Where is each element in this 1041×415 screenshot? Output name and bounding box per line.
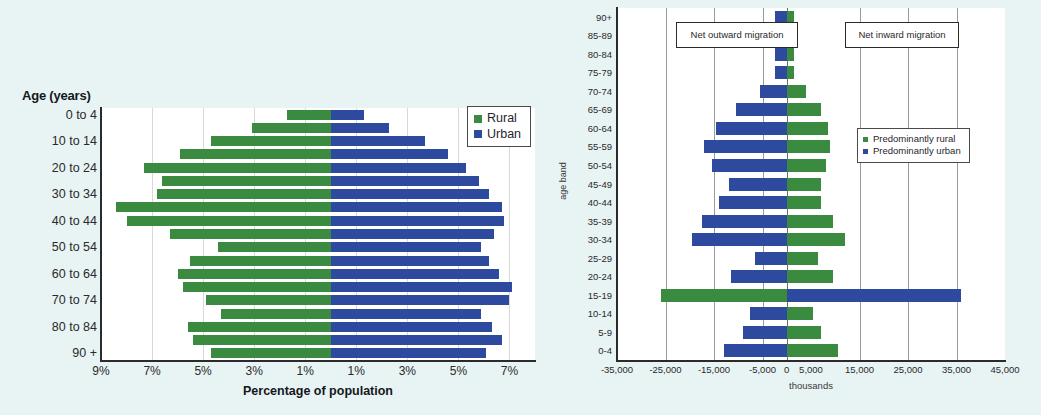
right-gridline	[714, 8, 715, 360]
right-bar-urban	[731, 270, 787, 283]
right-bar-rural	[787, 85, 806, 98]
left-bar-rural	[188, 322, 331, 332]
right-y-tick-label: 5-9	[560, 327, 612, 338]
left-bar-urban	[331, 295, 510, 305]
left-bar-rural	[162, 176, 330, 186]
legend-swatch-icon	[474, 130, 482, 138]
left-bar-urban	[331, 229, 494, 239]
left-bar-urban	[331, 242, 482, 252]
left-bar-rural	[218, 242, 330, 252]
left-bar-urban	[331, 256, 489, 266]
legend-swatch-icon	[474, 115, 482, 123]
left-bar-urban	[331, 216, 505, 226]
right-bar-rural	[661, 289, 787, 302]
right-y-tick-label: 85-89	[560, 30, 612, 41]
left-y-tick-label: 90 +	[7, 346, 97, 360]
left-chart-legend: RuralUrban	[467, 106, 531, 147]
legend-item-label: Predominantly rural	[873, 133, 955, 145]
right-gridline	[908, 8, 909, 360]
left-bar-urban	[331, 163, 466, 173]
right-y-tick-label: 25-29	[560, 253, 612, 264]
left-bar-rural	[252, 123, 331, 133]
left-bar-urban	[331, 348, 487, 358]
left-x-tick-label: 3%	[399, 364, 416, 378]
left-bar-urban	[331, 110, 364, 120]
left-x-tick-label: 1%	[297, 364, 314, 378]
left-y-tick-label: 30 to 34	[7, 187, 97, 201]
callout-net-inward-migration: Net inward migration	[845, 22, 959, 48]
right-bar-urban	[702, 215, 787, 228]
right-bar-rural	[787, 344, 838, 357]
right-y-tick-label: 75-79	[560, 67, 612, 78]
right-bar-urban	[704, 140, 786, 153]
right-bar-rural	[787, 307, 814, 320]
left-bar-rural	[178, 269, 331, 279]
right-bar-rural	[787, 122, 828, 135]
left-bar-urban	[331, 136, 425, 146]
net-migration-chart: 0-45-910-1415-1920-2425-2930-3435-3940-4…	[560, 0, 1041, 415]
right-bar-rural	[787, 103, 821, 116]
right-bar-rural	[787, 178, 821, 191]
left-bar-rural	[157, 189, 331, 199]
left-x-axis-line	[100, 360, 536, 362]
left-y-tick-label: 20 to 24	[7, 161, 97, 175]
right-chart-legend: Predominantly ruralPredominantly urban	[857, 128, 970, 163]
left-bar-urban	[331, 322, 492, 332]
right-x-tick-label: -15,000	[698, 364, 730, 375]
right-bar-urban	[736, 103, 787, 116]
left-bar-urban	[331, 176, 479, 186]
left-bar-rural	[144, 163, 330, 173]
right-y-axis-title: age band	[558, 162, 568, 200]
left-x-tick-label: 1%	[348, 364, 365, 378]
callout-outward-text: Net outward migration	[691, 29, 784, 40]
left-y-tick-label: 10 to 14	[7, 134, 97, 148]
right-bar-urban	[712, 159, 787, 172]
left-x-tick-label: 5%	[450, 364, 467, 378]
left-bar-rural	[221, 309, 331, 319]
left-x-tick-label: 7%	[501, 364, 518, 378]
right-y-axis-labels: 0-45-910-1415-1920-2425-2930-3435-3940-4…	[560, 0, 614, 415]
legend-item-label: Urban	[487, 127, 521, 143]
right-x-tick-label: -35,000	[601, 364, 633, 375]
right-y-tick-label: 20-24	[560, 271, 612, 282]
left-bar-rural	[170, 229, 331, 239]
right-bar-rural	[787, 66, 794, 79]
right-bar-rural	[787, 270, 833, 283]
right-gridline	[860, 8, 861, 360]
left-x-axis-title: Percentage of population	[100, 384, 536, 398]
left-bar-urban	[331, 335, 502, 345]
left-bar-rural	[206, 295, 331, 305]
right-y-tick-label: 35-39	[560, 216, 612, 227]
right-bar-urban	[775, 48, 787, 61]
right-bar-urban	[760, 85, 787, 98]
right-gridline	[957, 8, 958, 360]
left-bar-rural	[211, 348, 331, 358]
left-bar-urban	[331, 269, 499, 279]
left-y-axis-labels: 90 +80 to 8470 to 7460 to 6450 to 5440 t…	[4, 0, 97, 415]
right-bar-urban	[787, 289, 962, 302]
right-bar-urban	[719, 196, 787, 209]
right-y-tick-label: 15-19	[560, 290, 612, 301]
left-bar-rural	[193, 335, 331, 345]
right-bar-urban	[724, 344, 787, 357]
right-y-tick-label: 10-14	[560, 308, 612, 319]
right-bar-urban	[716, 122, 786, 135]
left-y-tick-label: 0 to 4	[7, 108, 97, 122]
left-y-tick-label: 40 to 44	[7, 214, 97, 228]
right-y-tick-label: 90+	[560, 12, 612, 23]
left-y-tick-label: 80 to 84	[7, 320, 97, 334]
left-y-tick-label: 60 to 64	[7, 267, 97, 281]
right-x-tick-label: 25,000	[893, 364, 922, 375]
left-y-tick-label: 70 to 74	[7, 293, 97, 307]
right-bar-rural	[787, 233, 845, 246]
right-x-tick-label: 15,000	[845, 364, 874, 375]
right-bar-rural	[787, 326, 821, 339]
right-y-tick-label: 50-54	[560, 160, 612, 171]
left-x-tick-label: 5%	[194, 364, 211, 378]
right-bar-rural	[787, 48, 794, 61]
right-x-axis-title: thousands	[616, 380, 1006, 391]
left-bar-rural	[116, 202, 330, 212]
left-bar-urban	[331, 309, 482, 319]
right-y-tick-label: 55-59	[560, 141, 612, 152]
right-y-tick-label: 70-74	[560, 86, 612, 97]
